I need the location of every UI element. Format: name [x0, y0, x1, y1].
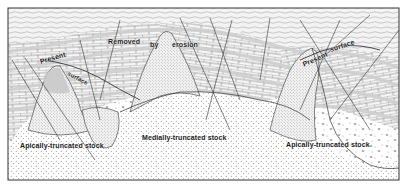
label-stock-left: Apically-truncated stock: [20, 142, 104, 149]
geologic-cross-section: [0, 0, 407, 194]
label-stock-right: Apically-truncated stock: [286, 141, 370, 148]
label-removed: Removed: [108, 38, 140, 45]
label-by: by: [150, 41, 158, 48]
label-stock-middle: Medially-truncated stock: [142, 134, 226, 141]
label-erosion: erosion: [172, 41, 198, 48]
